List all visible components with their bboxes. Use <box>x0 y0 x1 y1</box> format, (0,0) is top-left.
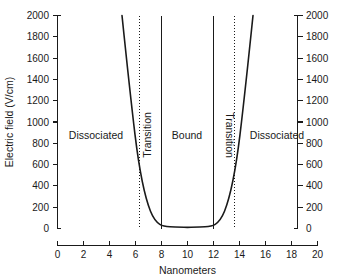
x-axis-title: Nanometers <box>159 264 216 276</box>
left-tick-label-600: 600 <box>32 159 49 170</box>
label-transition-right: Transition <box>224 112 236 158</box>
label-transition-left: Transition <box>141 112 153 158</box>
right-tick-label-800: 800 <box>306 138 323 149</box>
right-tick-label-200: 200 <box>306 202 323 213</box>
left-tick-label-1000: 1000 <box>27 117 50 128</box>
right-tick-label-0: 0 <box>306 223 312 234</box>
right-tick-label-1000: 1000 <box>306 117 329 128</box>
label-dissociated-left: Dissociated <box>69 129 123 141</box>
left-tick-label-400: 400 <box>32 180 49 191</box>
chart-svg: 2000 1800 1600 1400 1200 1000 800 600 40… <box>0 0 353 279</box>
label-bound: Bound <box>172 129 203 141</box>
left-tick-label-800: 800 <box>32 138 49 149</box>
left-tick-label-0: 0 <box>43 223 49 234</box>
x-tick-label-18: 18 <box>286 249 298 260</box>
x-tick-label-2: 2 <box>81 249 87 260</box>
right-tick-label-1400: 1400 <box>306 74 329 85</box>
left-tick-label-2000: 2000 <box>27 10 50 21</box>
left-tick-label-1200: 1200 <box>27 95 50 106</box>
x-tick-label-8: 8 <box>159 249 165 260</box>
x-tick-label-6: 6 <box>133 249 139 260</box>
chart-figure: 2000 1800 1600 1400 1200 1000 800 600 40… <box>0 0 353 279</box>
label-dissociated-right: Dissociated <box>250 129 304 141</box>
right-tick-label-1200: 1200 <box>306 95 329 106</box>
right-tick-label-600: 600 <box>306 159 323 170</box>
x-tick-label-4: 4 <box>107 249 113 260</box>
left-tick-label-1800: 1800 <box>27 31 50 42</box>
right-tick-label-400: 400 <box>306 180 323 191</box>
left-tick-label-1400: 1400 <box>27 74 50 85</box>
x-tick-label-12: 12 <box>208 249 220 260</box>
left-tick-label-200: 200 <box>32 202 49 213</box>
left-tick-label-1600: 1600 <box>27 53 50 64</box>
right-tick-label-2000: 2000 <box>306 10 329 21</box>
x-tick-label-14: 14 <box>234 249 246 260</box>
x-tick-label-0: 0 <box>55 249 61 260</box>
y-axis-title: Electric field (V/cm) <box>3 77 15 167</box>
right-tick-label-1600: 1600 <box>306 53 329 64</box>
right-tick-label-1800: 1800 <box>306 31 329 42</box>
x-tick-label-16: 16 <box>260 249 272 260</box>
x-tick-label-10: 10 <box>182 249 194 260</box>
x-tick-label-20: 20 <box>312 249 324 260</box>
